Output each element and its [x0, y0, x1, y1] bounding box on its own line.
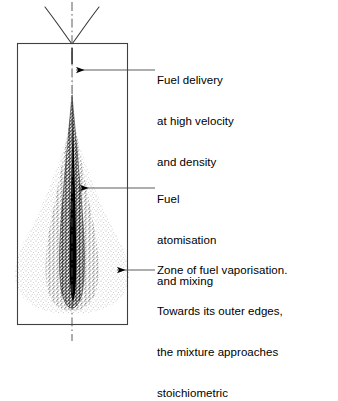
fuel-vaporisation-line-1: Zone of fuel vaporisation. [157, 264, 287, 278]
fuel-vaporisation-annotation: Zone of fuel vaporisation. Towards its o… [157, 237, 287, 401]
fuel-delivery-line-2: at high velocity [157, 115, 234, 129]
fuel-vaporisation-line-3: the mixture approaches [157, 346, 287, 360]
fuel-vaporisation-line-2: Towards its outer edges, [157, 305, 287, 319]
fuel-vaporisation-line-4: stoichiometric [157, 387, 287, 401]
fuel-atomisation-line-1: Fuel [157, 193, 216, 207]
fuel-delivery-line-1: Fuel delivery [157, 74, 234, 88]
fuel-delivery-annotation: Fuel delivery at high velocity and densi… [157, 47, 234, 183]
